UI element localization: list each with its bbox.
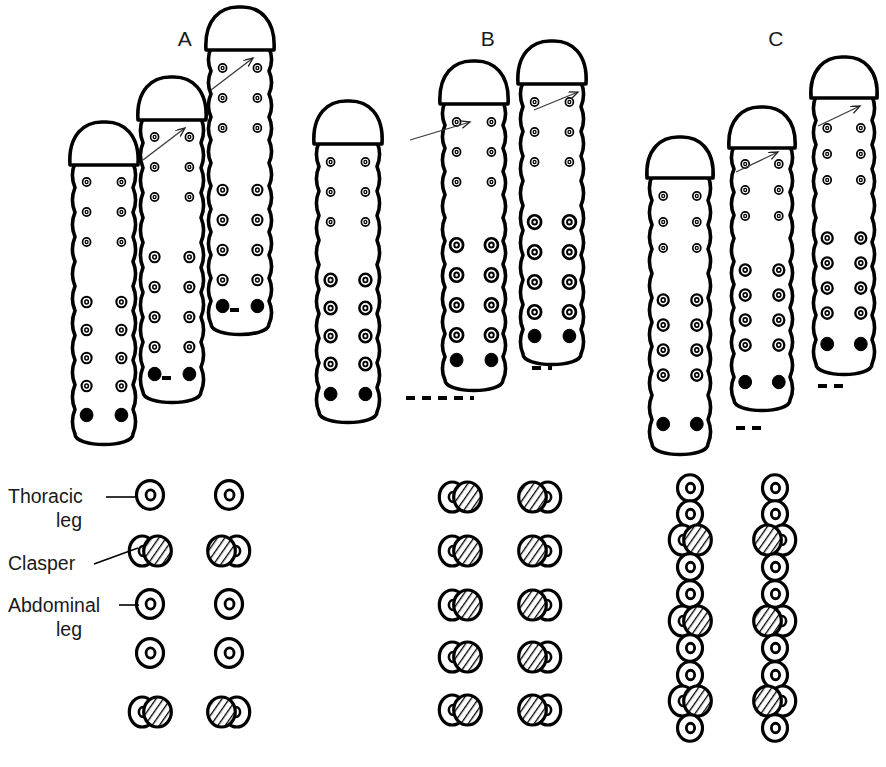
larva-b-2-abdominal-leg-left-4-inner (454, 272, 459, 277)
larva-b-2-abdominal-leg-left-4 (450, 268, 463, 282)
larva-b-1-abdominal-leg-left-3-inner (328, 278, 332, 283)
larva-a-1-abdominal-leg-right-4-inner (120, 328, 124, 332)
larva-a-1-abdominal-leg-right-5-inner (120, 356, 124, 360)
larva-b-2-abdominal-leg-left-5-inner (454, 302, 459, 307)
larva-b-3-abdominal-leg-left-3-inner (532, 219, 537, 224)
larva-b-2-abdominal-leg-left-3 (450, 238, 463, 252)
larva-a-3-thoracic-leg-right-2-inner (256, 126, 259, 129)
larva-b-3-clasper-left (528, 329, 541, 342)
larva-c-3-thoracic-leg-right-2 (857, 176, 865, 184)
larva-b-3-abdominal-leg-right-5-inner (567, 279, 572, 284)
larval-leg-pattern-figure: ABC ThoraciclegClasperAbdominalleg (0, 0, 886, 767)
larva-a-2-abdominal-leg-left-3 (150, 252, 160, 262)
larva-a-3-abdominal-leg-left-5-inner (221, 248, 225, 252)
larva-b-3-thoracic-leg-right-2 (565, 158, 573, 166)
diagram-B-col1-row0-clasper (519, 482, 561, 512)
larva-b-1-thoracic-leg-left-1-inner (329, 190, 332, 193)
larva-c-2-thoracic-leg-right-2 (775, 212, 783, 220)
larva-c-1-head (647, 137, 713, 178)
larva-a-3-abdominal-leg-left-3 (218, 185, 228, 195)
larva-a-3-clasper-right (251, 299, 264, 312)
diagram-B-col0-row4-clasper-hatched-disc (454, 695, 482, 725)
diagram-C-col1-row4-leg-inner (771, 589, 779, 599)
diagram-B-col1-row4-clasper (519, 695, 561, 725)
larva-c-1-thoracic-leg-right-1 (693, 218, 701, 226)
larva-c-3-thoracic-leg-left-1 (823, 150, 831, 158)
larva-b-2-abdominal-leg-right-6 (485, 328, 498, 342)
larva-a-2-thoracic-leg-left-2 (151, 193, 159, 201)
larva-a-2 (138, 77, 206, 403)
diagram-C-col1-row1-leg-inner (771, 509, 779, 519)
larva-b-2-thoracic-leg-left-1-inner (455, 150, 458, 153)
larva-a-2-clasper-right (183, 367, 196, 380)
larva-c-1-thoracic-leg-left-0-inner (662, 194, 665, 197)
larva-b-2-abdominal-leg-left-3-inner (454, 242, 459, 247)
larva-a-3-thoracic-leg-right-2 (253, 124, 261, 132)
diagram-A-col1-row3-leg-inner (225, 648, 234, 658)
larva-c-2-thoracic-leg-right-0 (775, 160, 783, 168)
larva-c-2-abdominal-leg-right-3-inner (777, 268, 781, 272)
larva-a-1-thoracic-leg-right-0 (117, 178, 125, 186)
larva-b-1-abdominal-leg-right-4-inner (363, 306, 367, 311)
larva-b-1-abdominal-leg-right-3 (359, 274, 371, 286)
diagram-A-col0-row0-leg (137, 481, 164, 510)
larva-b-1-thoracic-leg-right-2-inner (364, 220, 367, 223)
diagram-A-col0-row2-leg (137, 590, 164, 619)
larva-a-2-abdominal-leg-left-4 (150, 282, 160, 292)
diagram-C-col0-row4-leg (678, 581, 703, 608)
larva-a-1-abdominal-leg-left-3 (82, 297, 92, 307)
larva-b-3-thoracic-leg-left-2 (531, 158, 539, 166)
larva-b-3-abdominal-leg-right-6-inner (567, 309, 572, 314)
larva-a-1-thoracic-leg-right-1 (117, 208, 125, 216)
figure-canvas: ABC ThoraciclegClasperAbdominalleg (0, 0, 886, 767)
larva-c-3-thoracic-leg-right-1-inner (859, 152, 862, 155)
larva-c-2-clasper-right (772, 375, 785, 388)
diagram-C-col1-row1-leg (763, 501, 788, 528)
larva-a-1-abdominal-leg-right-6-inner (120, 384, 124, 388)
larva-a-1-thoracic-leg-left-0 (83, 178, 91, 186)
diagram-A-col1-row1-clasper (208, 536, 250, 566)
larva-a-2-abdominal-leg-right-4-inner (188, 285, 192, 289)
larva-c-2-body (731, 146, 792, 411)
larva-b-2-abdominal-leg-right-5-inner (489, 302, 494, 307)
larva-c-2-abdominal-leg-left-4 (740, 289, 751, 300)
larva-c-1-thoracic-leg-right-2 (693, 244, 701, 252)
larva-a-2-thoracic-leg-right-2-inner (188, 195, 191, 198)
larva-a-3-abdominal-leg-right-4-inner (256, 218, 260, 222)
diagram-C-col1-row0-leg-inner (771, 483, 779, 493)
larva-a-2-abdominal-leg-right-6 (184, 342, 194, 352)
diagram-A-col0-row3-leg (137, 639, 164, 668)
larva-a-3-thoracic-leg-right-1 (253, 94, 261, 102)
larva-c-2-thoracic-leg-left-1 (741, 186, 749, 194)
larva-c-3-abdominal-leg-left-4 (822, 257, 833, 268)
larva-c-2-thoracic-leg-left-0-inner (744, 162, 747, 165)
larva-b-3-abdominal-leg-left-6 (528, 305, 541, 319)
larva-c-1 (647, 137, 713, 455)
larva-b-1 (314, 101, 382, 423)
diagram-B-col1-row1-clasper (519, 536, 561, 566)
larva-b-2-abdominal-leg-right-3 (485, 238, 498, 252)
larva-c-1-abdominal-leg-right-4-inner (695, 323, 699, 327)
larva-a-1-abdominal-leg-left-5 (82, 353, 92, 363)
larva-b-2-thoracic-leg-right-0 (487, 118, 495, 126)
diagram-C-col0-row9-leg-inner (686, 723, 694, 733)
larva-b-3-abdominal-leg-left-3 (528, 215, 541, 229)
larva-b-3-abdominal-leg-right-3-inner (567, 219, 572, 224)
larva-b-2-abdominal-leg-right-5 (485, 298, 498, 312)
larva-c-2-abdominal-leg-left-5-inner (743, 318, 747, 322)
larva-c-1-abdominal-leg-left-3-inner (661, 298, 665, 302)
larva-a-1-abdominal-leg-right-4 (116, 325, 126, 335)
diagram-C-col1-row5-clasper (754, 606, 796, 636)
larva-a-2-abdominal-leg-right-6-inner (188, 345, 192, 349)
larva-b-3-thoracic-leg-right-2-inner (568, 160, 571, 163)
larva-a-2-thoracic-leg-right-0 (185, 133, 193, 141)
larva-c-1-thoracic-leg-left-0 (659, 192, 667, 200)
diagram-C-col0-row0-leg-inner (686, 483, 694, 493)
larva-b-3-thoracic-leg-left-1 (531, 128, 539, 136)
larva-b-3-thoracic-leg-left-0-inner (533, 100, 536, 103)
larva-a-1-thoracic-leg-left-2-inner (85, 240, 88, 243)
larva-a-3-thoracic-leg-left-2-inner (221, 126, 224, 129)
larva-c-3 (811, 57, 877, 375)
larva-c-2-abdominal-leg-left-3-inner (743, 268, 747, 272)
larva-a-1-abdominal-leg-left-3-inner (85, 300, 89, 304)
